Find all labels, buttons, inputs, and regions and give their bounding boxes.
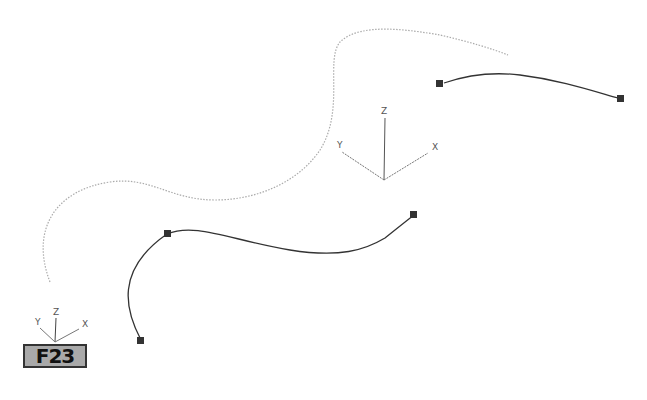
vertex-handle[interactable] bbox=[410, 211, 417, 218]
vertex-handle[interactable] bbox=[436, 80, 443, 87]
viewport: Z Y X Z Y X F23 bbox=[0, 0, 647, 400]
y-axis-label: Y bbox=[34, 317, 41, 327]
z-axis-label: Z bbox=[381, 106, 387, 116]
vertex-handle[interactable] bbox=[164, 230, 171, 237]
x-axis-label: X bbox=[82, 319, 88, 329]
vertex-handle[interactable] bbox=[617, 95, 624, 102]
y-axis-label: Y bbox=[336, 140, 343, 150]
view-axis-tripod: Z Y X bbox=[34, 307, 88, 342]
figure-badge: F23 bbox=[23, 344, 87, 368]
vertex-handle[interactable] bbox=[137, 337, 144, 344]
scene-canvas: Z Y X Z Y X bbox=[0, 0, 647, 400]
upper-right-curve bbox=[444, 74, 618, 98]
z-axis-label: Z bbox=[53, 307, 59, 317]
dotted-reference-curve bbox=[43, 29, 508, 282]
lower-curve bbox=[128, 215, 414, 340]
x-axis-label: X bbox=[432, 142, 438, 152]
transform-gizmo[interactable]: Z Y X bbox=[336, 106, 438, 180]
